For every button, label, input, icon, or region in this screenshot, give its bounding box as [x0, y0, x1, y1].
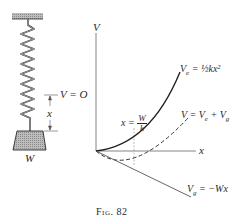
graph-axes: [96, 33, 196, 151]
gravity-energy-line: [96, 151, 191, 197]
y-axis-label: V: [93, 22, 100, 33]
weight-block: [13, 131, 46, 150]
x-axis-label: x: [199, 145, 204, 156]
displacement-label: x: [47, 108, 52, 119]
total-curve-label: V = Ve + Vg: [181, 110, 229, 123]
ceiling-support: [12, 13, 43, 19]
reference-level-label: V = O: [60, 89, 87, 100]
elastic-curve-label: Ve = ½kx²: [180, 64, 220, 77]
gravity-line-label: Vg = −Wx: [187, 184, 228, 197]
figure-caption: Fig. 82: [96, 206, 127, 217]
weight-label: W: [25, 153, 34, 164]
equilibrium-label: x = Wk: [121, 114, 147, 133]
elastic-energy-curve: [96, 72, 180, 151]
